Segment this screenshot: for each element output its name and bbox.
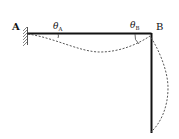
label-b: B — [156, 21, 163, 32]
fixed-support — [23, 27, 28, 46]
label-a: A — [11, 21, 20, 32]
label-theta-a: θA — [53, 21, 63, 32]
frame-diagram: A θA θB B — [0, 0, 179, 139]
theta-b-arc — [135, 34, 139, 44]
theta-a-arc — [58, 34, 59, 38]
label-theta-b: θB — [130, 20, 139, 31]
deflected-shape — [28, 34, 168, 132]
